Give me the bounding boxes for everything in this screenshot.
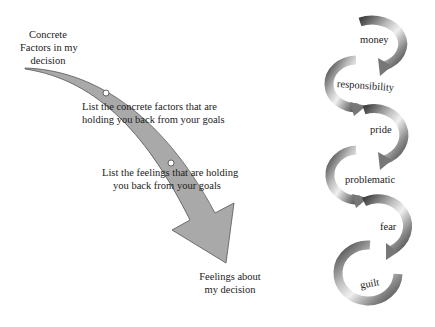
start-label: Concrete Factors in my decision bbox=[20, 28, 76, 67]
start-label-line-3: decision bbox=[20, 54, 76, 67]
end-label-line-2: my decision bbox=[194, 283, 266, 296]
concrete-prompt-line-2: holding you back from your goals bbox=[82, 113, 216, 126]
spiral-label-fear: fear bbox=[380, 221, 396, 232]
spiral-label-problematic: problematic bbox=[345, 174, 395, 185]
feelings-prompt: List the feelings that are holding you b… bbox=[102, 166, 232, 192]
concrete-prompt-line-1: List the concrete factors that are bbox=[82, 100, 216, 113]
spiral-label-money: money bbox=[360, 34, 389, 45]
start-label-line-2: Factors in my bbox=[20, 41, 76, 54]
feelings-prompt-line-1: List the feelings that are holding bbox=[102, 166, 232, 179]
spiral-chain bbox=[329, 20, 408, 301]
start-label-line-1: Concrete bbox=[20, 28, 76, 41]
spiral-label-pride: pride bbox=[370, 124, 392, 135]
end-label-line-1: Feelings about bbox=[194, 270, 266, 283]
concrete-factors-prompt: List the concrete factors that are holdi… bbox=[82, 100, 216, 126]
marker-dot-1 bbox=[103, 90, 109, 96]
end-label: Feelings about my decision bbox=[194, 270, 266, 296]
feelings-prompt-line-2: you back from your goals bbox=[102, 179, 232, 192]
